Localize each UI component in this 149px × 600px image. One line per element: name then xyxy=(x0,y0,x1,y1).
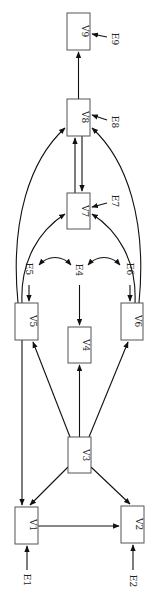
node-v6-label: V6 xyxy=(133,314,143,327)
node-v6: V6 xyxy=(121,303,143,340)
edge-v3-v6 xyxy=(89,342,128,437)
edge-v3-v1 xyxy=(30,467,68,505)
node-v9: V9 xyxy=(67,13,90,50)
edge-e5-e4 xyxy=(39,258,71,266)
node-v7-label: V7 xyxy=(80,204,90,217)
node-v5: V5 xyxy=(15,303,38,340)
node-v9-label: V9 xyxy=(80,24,90,37)
node-v1: V1 xyxy=(15,507,38,544)
edge-v5-v7 xyxy=(22,214,65,303)
node-v3: V3 xyxy=(68,437,91,473)
node-v1-label: V1 xyxy=(28,518,38,531)
node-v8-label: V8 xyxy=(80,110,90,123)
label-e4: E4 xyxy=(74,264,84,277)
node-v4-label: V4 xyxy=(81,338,91,351)
edge-e9-v9 xyxy=(92,34,107,37)
causal-graph: V9 V8 V7 V5 V4 V6 V3 V1 V2 E9 E8 E7 E5 E… xyxy=(0,0,149,600)
label-e9: E9 xyxy=(110,33,120,46)
node-v2: V2 xyxy=(121,506,144,543)
node-v7: V7 xyxy=(67,193,90,229)
edge-e8-v8 xyxy=(92,115,107,120)
label-e1: E1 xyxy=(22,574,32,586)
node-v5-label: V5 xyxy=(28,314,38,327)
label-e8: E8 xyxy=(110,116,120,129)
edge-v3-v2 xyxy=(91,467,130,504)
label-e7: E7 xyxy=(110,195,120,208)
label-e2: E2 xyxy=(128,575,138,587)
label-e5: E5 xyxy=(24,263,34,276)
node-v8: V8 xyxy=(67,99,90,136)
node-v3-label: V3 xyxy=(81,448,91,461)
edge-v3-v5 xyxy=(33,342,70,437)
node-v4: V4 xyxy=(68,327,91,363)
node-v2-label: V2 xyxy=(134,517,144,530)
edge-e7-v7 xyxy=(92,203,107,207)
edge-e4-e6 xyxy=(88,258,120,266)
label-e6: E6 xyxy=(125,263,135,276)
